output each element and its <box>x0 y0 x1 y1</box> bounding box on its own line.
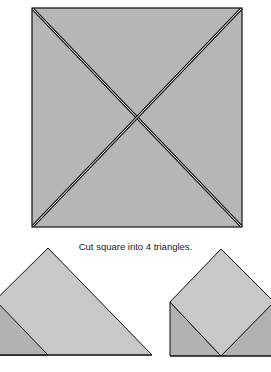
figure-caption: Cut square into 4 triangles. <box>0 241 271 252</box>
left-triangle-assembly <box>0 248 152 355</box>
square-figure <box>32 8 242 227</box>
right-diamond-assembly <box>170 249 271 356</box>
diagram-canvas <box>0 0 271 372</box>
